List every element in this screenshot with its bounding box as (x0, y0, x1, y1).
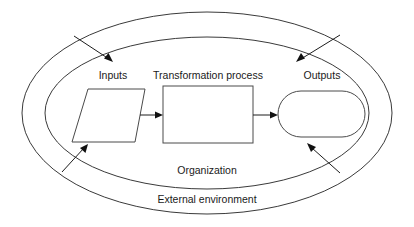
organization-label: Organization (177, 164, 237, 176)
external-environment-label: External environment (157, 193, 256, 205)
inputs-shape (72, 89, 145, 142)
systems-diagram: Inputs Transformation process Outputs Or… (0, 0, 414, 227)
transformation-process-label: Transformation process (153, 69, 263, 81)
env-arrow-bottom-right (307, 143, 340, 173)
outputs-shape (278, 91, 365, 137)
transformation-to-outputs-arrow (253, 112, 278, 119)
transformation-process-shape (163, 86, 253, 143)
env-arrow-bottom-left (62, 144, 88, 172)
inputs-to-transformation-arrow (140, 112, 163, 119)
diagram-canvas: Inputs Transformation process Outputs Or… (0, 0, 414, 227)
inputs-label: Inputs (99, 69, 128, 81)
env-arrow-top-left (74, 36, 113, 62)
outputs-label: Outputs (304, 69, 341, 81)
